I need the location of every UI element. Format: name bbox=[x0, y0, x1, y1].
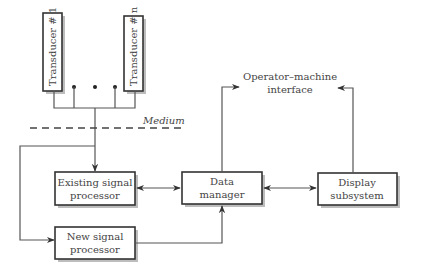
existing-signal-processor-block: Existing signal processor bbox=[55, 172, 138, 208]
display-subsystem-block: Display subsystem bbox=[318, 173, 400, 208]
transducer-1-block: Transducer # 1 bbox=[43, 7, 65, 94]
data-manager-block: Data manager bbox=[182, 172, 265, 207]
transducer-ellipsis bbox=[72, 85, 117, 89]
data-manager-to-interface-arrow bbox=[222, 87, 239, 172]
existing-processor-label-1: Existing signal bbox=[58, 177, 133, 188]
medium-label: Medium bbox=[142, 115, 185, 126]
diagram-canvas: Transducer # 1 Transducer # n Medium Exi… bbox=[0, 0, 424, 279]
display-subsystem-label-2: subsystem bbox=[330, 190, 384, 201]
medium-boundary: Medium bbox=[30, 115, 185, 128]
transducer-n-label: Transducer # n bbox=[128, 6, 139, 86]
operator-machine-interface: Operator–machine interface bbox=[243, 71, 337, 95]
new-processor-to-data-manager-arrow bbox=[135, 206, 222, 243]
new-processor-label-2: processor bbox=[70, 244, 120, 255]
display-to-interface-arrow bbox=[338, 88, 353, 173]
new-signal-processor-block: New signal processor bbox=[55, 227, 138, 262]
data-manager-label-1: Data bbox=[210, 176, 234, 187]
existing-processor-label-2: processor bbox=[70, 190, 120, 201]
interface-label-2: interface bbox=[267, 84, 313, 95]
interface-label-1: Operator–machine bbox=[243, 71, 337, 82]
display-subsystem-label-1: Display bbox=[338, 177, 376, 188]
new-processor-label-1: New signal bbox=[67, 231, 124, 242]
transducer-bus bbox=[54, 87, 135, 171]
transducer-n-block: Transducer # n bbox=[124, 6, 146, 94]
ellipsis-dot-icon bbox=[93, 85, 97, 89]
transducer-1-label: Transducer # 1 bbox=[47, 7, 58, 86]
data-manager-label-2: manager bbox=[200, 189, 245, 200]
